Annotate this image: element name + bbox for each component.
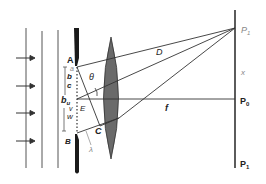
- label-x: x: [240, 68, 246, 77]
- label-c: c: [67, 81, 72, 90]
- label-D: D: [156, 47, 163, 57]
- label-P1-bottom: P1: [240, 159, 250, 170]
- theta-arc: [95, 88, 97, 96]
- label-lambda: λ: [88, 145, 93, 154]
- rays: [77, 28, 235, 133]
- label-A: A: [67, 55, 74, 65]
- label-P0: P0: [240, 96, 250, 107]
- label-f: f: [165, 103, 169, 113]
- slit-barrier: [74, 28, 79, 174]
- label-C: C: [95, 126, 102, 136]
- lens: [104, 37, 119, 159]
- label-E: E: [80, 104, 86, 113]
- label-P1-top: P1: [241, 25, 250, 36]
- wavefronts: [26, 28, 58, 168]
- diffraction-diagram: A a b c bu E v w B C θ λ D f x P1 P0 P1: [0, 0, 266, 184]
- lambda-pointer: [86, 131, 91, 145]
- label-theta: θ: [89, 72, 94, 82]
- label-b: b: [67, 72, 72, 81]
- label-a: a: [70, 65, 74, 72]
- label-B: B: [65, 137, 71, 146]
- label-w: w: [67, 112, 74, 121]
- label-v: v: [69, 105, 73, 112]
